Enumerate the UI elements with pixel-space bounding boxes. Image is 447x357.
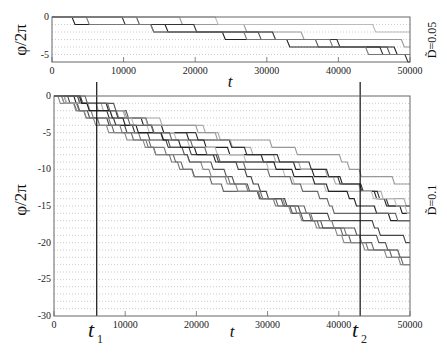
x-tick-label: 40000 (326, 65, 351, 76)
y-tick-label: -5 (41, 49, 49, 60)
x-tick-label: 20000 (183, 65, 208, 76)
y-tick-label: 0 (46, 90, 51, 101)
trajectory-line (52, 17, 410, 55)
x-tick-label: 10000 (113, 319, 138, 330)
top-x-axis-label: t (228, 72, 234, 91)
bottom-d-label: D̃=0.1 (425, 185, 439, 215)
trajectory-line (54, 96, 410, 221)
x-tick-label: 20000 (184, 319, 209, 330)
trajectory-line (54, 96, 410, 221)
figure: 010000200003000040000500000-5 0100002000… (0, 0, 447, 357)
svg-text:t: t (88, 317, 95, 342)
y-tick-label: -5 (43, 127, 51, 138)
x-tick-label: 40000 (326, 319, 351, 330)
x-tick-label: 50000 (398, 65, 423, 76)
t2-label: t 2 (352, 317, 367, 346)
trajectory-line (52, 17, 410, 55)
x-tick-label: 10000 (111, 65, 136, 76)
top-d-label: D̃=0.05 (425, 22, 439, 58)
trajectory-line (54, 96, 410, 206)
x-tick-label: 0 (50, 65, 55, 76)
trajectory-line (54, 96, 410, 184)
svg-text:1: 1 (97, 332, 103, 346)
x-tick-label: 30000 (255, 319, 280, 330)
trajectory-line (52, 17, 410, 55)
x-tick-label: 50000 (398, 319, 423, 330)
t1-label: t 1 (88, 317, 103, 346)
top-y-axis-label: φ/2π (11, 24, 30, 56)
y-tick-label: 0 (44, 11, 49, 22)
y-tick-label: -15 (38, 200, 51, 211)
y-tick-label: -20 (38, 237, 51, 248)
top-panel: 010000200003000040000500000-5 (41, 11, 423, 76)
x-tick-label: 30000 (254, 65, 279, 76)
bottom-panel: 010000200003000040000500000-5-10-15-20-2… (38, 82, 423, 330)
bottom-y-axis-label: φ/2π (11, 184, 30, 216)
y-tick-label: -25 (38, 273, 51, 284)
x-tick-label: 0 (52, 319, 57, 330)
y-tick-label: -30 (38, 310, 51, 321)
bottom-x-axis-label: t (230, 322, 236, 341)
svg-text:t: t (352, 317, 359, 342)
svg-text:2: 2 (361, 332, 367, 346)
y-tick-label: -10 (38, 163, 51, 174)
